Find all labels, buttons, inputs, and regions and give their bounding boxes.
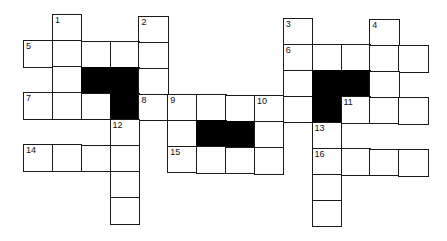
black-square (110, 67, 140, 95)
crossword-cell[interactable]: 13 (312, 122, 342, 150)
crossword-cell[interactable]: 2 (138, 16, 168, 44)
black-square (341, 70, 371, 98)
crossword-cell[interactable] (52, 40, 82, 68)
clue-number: 2 (141, 18, 146, 27)
crossword-cell[interactable] (225, 95, 255, 123)
crossword-cell[interactable] (196, 146, 226, 174)
crossword-cell[interactable] (167, 120, 197, 148)
crossword-cell[interactable] (312, 174, 342, 202)
crossword-cell[interactable] (138, 68, 168, 96)
crossword-cell[interactable] (110, 41, 140, 69)
crossword-cell[interactable] (312, 44, 342, 72)
crossword-cell[interactable] (52, 66, 82, 94)
clue-number: 1 (55, 16, 60, 25)
crossword-cell[interactable] (138, 42, 168, 70)
crossword-cell[interactable] (341, 148, 371, 176)
black-square (312, 70, 342, 98)
crossword-cell[interactable]: 12 (110, 119, 140, 147)
black-square (81, 67, 111, 95)
clue-number: 9 (170, 96, 175, 105)
crossword-cell[interactable]: 3 (283, 18, 313, 46)
crossword-cell[interactable]: 7 (23, 92, 53, 120)
clue-number: 6 (286, 46, 291, 55)
crossword-cell[interactable] (225, 147, 255, 175)
crossword-cell[interactable]: 14 (23, 144, 53, 172)
clue-number: 8 (141, 96, 146, 105)
black-square (196, 120, 226, 148)
crossword-cell[interactable] (369, 149, 399, 177)
clue-number: 7 (26, 94, 31, 103)
crossword-cell[interactable]: 9 (167, 94, 197, 122)
crossword-cell[interactable] (341, 44, 371, 72)
clue-number: 3 (286, 20, 291, 29)
crossword-cell[interactable] (254, 147, 284, 175)
clue-number: 10 (257, 97, 267, 106)
crossword-cell[interactable] (110, 171, 140, 199)
black-square (312, 96, 342, 124)
crossword-cell[interactable] (81, 93, 111, 121)
clue-number: 12 (113, 121, 123, 130)
crossword-cell[interactable] (81, 41, 111, 69)
crossword-cell[interactable] (398, 97, 428, 125)
crossword-cell[interactable] (369, 45, 399, 73)
crossword-cell[interactable] (196, 94, 226, 122)
crossword-cell[interactable] (81, 145, 111, 173)
crossword-cell[interactable]: 8 (138, 94, 168, 122)
crossword-cell[interactable] (52, 144, 82, 172)
crossword-cell[interactable] (110, 145, 140, 173)
crossword-cell[interactable] (283, 96, 313, 124)
clue-number: 14 (26, 146, 36, 155)
crossword-cell[interactable]: 5 (23, 40, 53, 68)
crossword-cell[interactable] (52, 92, 82, 120)
crossword-cell[interactable] (254, 121, 284, 149)
crossword-cell[interactable] (369, 97, 399, 125)
crossword-cell[interactable] (369, 71, 399, 99)
clue-number: 16 (315, 150, 325, 159)
black-square (225, 121, 255, 149)
crossword-grid: 12345678910111213141516 (0, 0, 447, 241)
crossword-cell[interactable]: 6 (283, 44, 313, 72)
crossword-cell[interactable]: 10 (254, 95, 284, 123)
clue-number: 15 (170, 148, 180, 157)
clue-number: 5 (26, 42, 31, 51)
crossword-cell[interactable] (110, 197, 140, 225)
crossword-cell[interactable] (312, 200, 342, 228)
crossword-cell[interactable]: 1 (52, 14, 82, 42)
clue-number: 4 (372, 21, 377, 30)
crossword-cell[interactable]: 4 (369, 19, 399, 47)
crossword-cell[interactable] (398, 149, 428, 177)
clue-number: 11 (344, 98, 353, 107)
crossword-cell[interactable]: 11 (341, 96, 371, 124)
crossword-cell[interactable]: 16 (312, 148, 342, 176)
crossword-cell[interactable] (398, 45, 428, 73)
crossword-cell[interactable]: 15 (167, 146, 197, 174)
crossword-cell[interactable] (283, 70, 313, 98)
black-square (110, 93, 140, 121)
clue-number: 13 (315, 124, 325, 133)
